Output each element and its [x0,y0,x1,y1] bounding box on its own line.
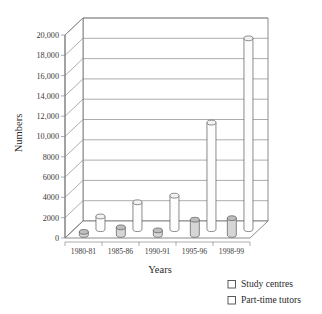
bar-top-cap [207,120,216,125]
y-axis-tick-label: 0 [55,234,59,243]
x-axis-tick-label: 1990-91 [145,247,171,256]
y-axis-tick-group [61,35,65,238]
y-axis-tick-label: 12,000 [36,112,59,121]
chart-legend: Study centresPart-time tutors [228,278,301,305]
bar-top-cap [96,214,105,219]
bar-cylinder [207,120,216,231]
legend-label-1: Study centres [241,278,293,289]
y-axis-tick-label: 18,000 [36,51,59,60]
bar-body [133,202,142,231]
bar-body [170,196,179,232]
bar-body [244,38,253,231]
x-axis-tick-label: 1998-99 [219,247,245,256]
bar-cylinder [244,36,253,232]
bar-cylinder [190,217,199,237]
bar-body [227,218,236,237]
y-axis-tick-label: 4000 [43,193,59,202]
bar-top-cap [190,217,199,222]
y-axis-tick-label: 8000 [43,153,59,162]
bar-top-cap [79,229,88,234]
x-axis-tick-group [65,242,250,246]
bar-chart: 0200040006000800010,00012,00014,00016,00… [0,0,322,314]
bar-top-cap [133,200,142,205]
y-axis-tick-labels: 0200040006000800010,00012,00014,00016,00… [36,31,59,243]
y-axis-tick-label: 14,000 [36,92,59,101]
plot-area-3d-box [65,18,268,238]
x-axis-title: Years [148,264,171,275]
y-axis-tick-label: 16,000 [36,72,59,81]
bar-cylinder [170,193,179,231]
legend-swatch-1 [228,281,236,289]
x-axis-tick-labels: 1980-811985-861990-911995-961998-99 [71,247,245,256]
x-axis-tick-label: 1980-81 [71,247,97,256]
y-axis-tick-label: 10,000 [36,132,59,141]
bar-cylinder [96,214,105,231]
y-axis-tick-label: 2000 [43,214,59,223]
bar-body [207,123,216,232]
x-axis-tick-label: 1995-96 [182,247,208,256]
bar-top-cap [244,36,253,41]
bar-top-cap [116,225,125,230]
legend-label-2: Part-time tutors [241,294,301,305]
bar-top-cap [170,193,179,198]
legend-swatch-2 [228,297,236,305]
chart-canvas: 0200040006000800010,00012,00014,00016,00… [0,0,322,314]
y-axis-title: Numbers [13,114,24,153]
bar-cylinder [153,228,162,237]
bar-cylinder [227,216,236,238]
bar-top-cap [227,216,236,221]
x-axis-tick-label: 1985-86 [108,247,134,256]
y-axis-tick-label: 6000 [43,173,59,182]
floor [65,221,268,238]
bar-cylinder [116,225,125,237]
bar-cylinder [133,200,142,232]
bar-top-cap [153,228,162,233]
y-axis-tick-label: 20,000 [36,31,59,40]
bar-cylinder [79,229,88,237]
